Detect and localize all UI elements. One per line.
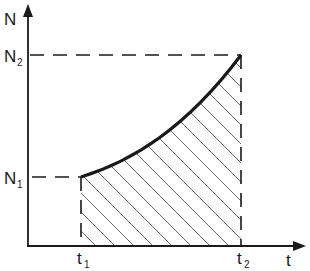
- svg-text:1: 1: [17, 179, 23, 190]
- svg-text:2: 2: [17, 57, 23, 68]
- svg-text:t: t: [237, 249, 242, 268]
- diagram: N t N 2 N 1 t 1 t 2: [0, 0, 310, 271]
- n1-label: N 1: [4, 169, 23, 190]
- diagram-canvas: N t N 2 N 1 t 1 t 2: [0, 0, 310, 271]
- y-axis-label: N: [4, 10, 16, 29]
- svg-text:N: N: [4, 47, 16, 66]
- hatched-area: [0, 0, 310, 260]
- y-axis-arrow-icon: [23, 4, 33, 17]
- t2-label: t 2: [237, 249, 250, 270]
- svg-text:t: t: [77, 249, 82, 268]
- svg-text:2: 2: [244, 259, 250, 270]
- x-axis-label: t: [286, 251, 291, 270]
- svg-text:1: 1: [84, 259, 90, 270]
- t1-label: t 1: [77, 249, 90, 270]
- x-axis-arrow-icon: [293, 241, 306, 251]
- svg-text:N: N: [4, 169, 16, 188]
- n2-label: N 2: [4, 47, 23, 68]
